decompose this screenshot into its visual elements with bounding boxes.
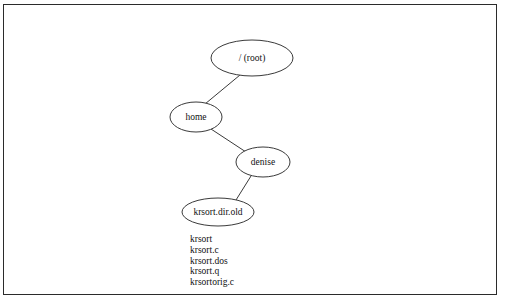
tree-node-krsort-dir-old[interactable]: krsort.dir.old (182, 198, 254, 226)
node-label-krsort-dir-old: krsort.dir.old (193, 207, 242, 217)
node-label-root: / (root) (239, 53, 266, 64)
tree-node-denise[interactable]: denise (236, 147, 290, 177)
list-item: krsort.q (190, 266, 310, 277)
tree-node-home[interactable]: home (170, 102, 222, 132)
edge-root-home (205, 75, 240, 104)
list-item: krsort.c (190, 245, 310, 256)
edge-home-denise (211, 129, 246, 152)
tree-node-root[interactable]: / (root) (211, 40, 293, 76)
tree-edges (205, 75, 251, 200)
node-label-denise: denise (251, 157, 275, 167)
file-list: krsort krsort.c krsort.dos krsort.q krso… (190, 234, 310, 288)
list-item: krsort.dos (190, 256, 310, 267)
edge-denise-krsort-dir-old (236, 176, 251, 200)
node-label-home: home (185, 112, 206, 122)
list-item: krsort (190, 234, 310, 245)
list-item: krsortorig.c (190, 277, 310, 288)
